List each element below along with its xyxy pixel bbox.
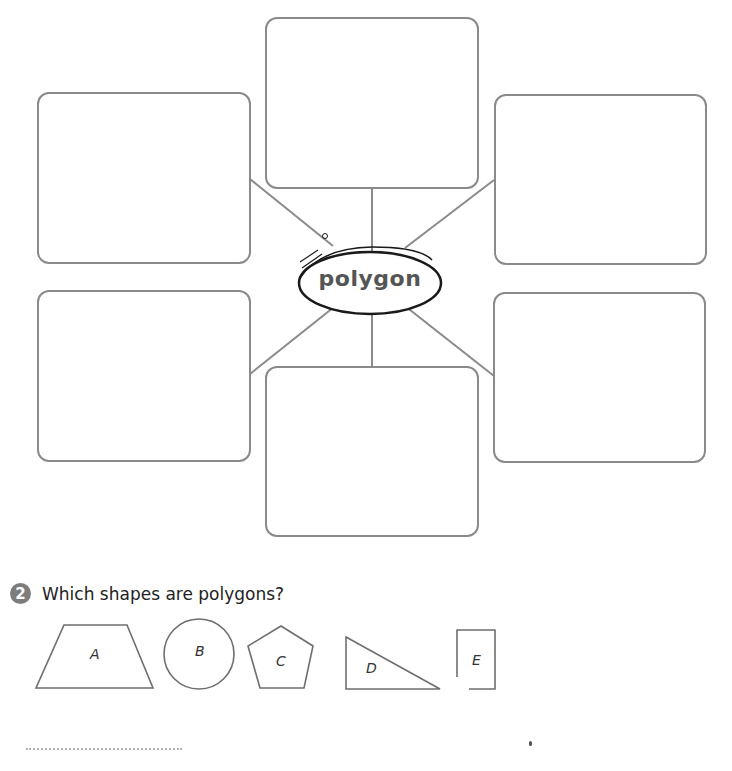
shape-label-e: E [472, 652, 481, 668]
shape-label-a: A [90, 646, 100, 662]
worksheet-page: polygon 2 Which shapes are polygons? A B… [0, 0, 732, 771]
shape-label-c: C [276, 653, 286, 669]
speck-dot [529, 741, 532, 746]
shape-label-b: B [195, 643, 205, 659]
answer-line[interactable] [26, 748, 182, 750]
shapes-row [0, 0, 732, 771]
shape-d-triangle [346, 637, 440, 689]
shape-label-d: D [366, 660, 377, 676]
